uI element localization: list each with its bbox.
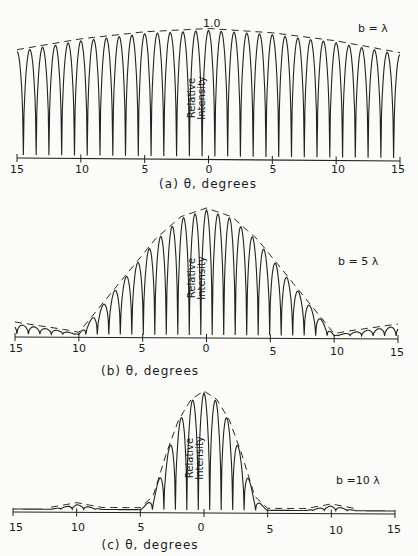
peak-label: 1.0 bbox=[203, 17, 221, 30]
diffraction-figure bbox=[0, 0, 418, 556]
panel-a-ylabel: RelativeIntensity bbox=[187, 68, 207, 128]
panel-a-title: b = λ bbox=[358, 22, 388, 35]
panel-b-ylabel: RelativeIntensity bbox=[187, 248, 207, 308]
panel-b-caption: (b) θ, degrees bbox=[101, 364, 199, 378]
panel-c-ylabel: RelativeIntensity bbox=[185, 428, 205, 488]
envelope-curve bbox=[17, 29, 400, 53]
panel-c-title: b =10 λ bbox=[336, 474, 380, 487]
panel-b-title: b = 5 λ bbox=[338, 255, 378, 268]
panel-c-caption: (c) θ, degrees bbox=[101, 538, 198, 552]
panel-a-plot bbox=[17, 29, 400, 166]
panel-a-caption: (a) θ, degrees bbox=[159, 177, 257, 191]
